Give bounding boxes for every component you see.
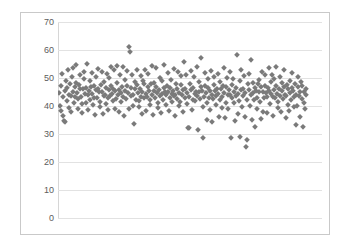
scatter-point bbox=[262, 73, 268, 79]
scatter-point bbox=[107, 75, 113, 81]
scatter-point bbox=[79, 110, 85, 116]
plot-area bbox=[58, 22, 322, 218]
scatter-point bbox=[278, 109, 284, 115]
scatter-point bbox=[266, 65, 272, 71]
scatter-point bbox=[136, 104, 142, 110]
scatter-point bbox=[62, 119, 68, 125]
scatter-point bbox=[145, 71, 151, 77]
scatter-point bbox=[159, 78, 165, 84]
scatter-point bbox=[300, 124, 306, 130]
scatter-point bbox=[286, 108, 292, 114]
scatter-point bbox=[242, 114, 248, 120]
scatter-point bbox=[165, 70, 171, 76]
chart-container: 010203040506070 bbox=[0, 0, 351, 248]
scatter-point bbox=[166, 108, 172, 114]
scatter-point bbox=[184, 101, 190, 107]
scatter-point bbox=[222, 115, 228, 121]
scatter-point bbox=[127, 49, 133, 55]
scatter-point bbox=[117, 73, 123, 79]
scatter-point bbox=[289, 70, 295, 76]
scatter-point bbox=[237, 78, 243, 84]
y-axis-tick-label: 60 bbox=[24, 46, 54, 55]
scatter-point bbox=[188, 68, 194, 74]
scatter-point bbox=[254, 106, 260, 112]
scatter-point bbox=[207, 107, 213, 113]
scatter-point bbox=[153, 65, 159, 71]
y-axis-tick-label: 0 bbox=[24, 214, 54, 223]
scatter-point bbox=[209, 119, 215, 125]
scatter-point bbox=[227, 69, 233, 75]
scatter-point bbox=[248, 57, 254, 63]
scatter-point bbox=[224, 75, 230, 81]
y-axis-tick-label: 40 bbox=[24, 102, 54, 111]
scatter-point bbox=[150, 112, 156, 118]
scatter-point bbox=[273, 64, 279, 70]
scatter-point bbox=[247, 103, 253, 109]
scatter-point bbox=[270, 113, 276, 119]
scatter-point bbox=[221, 66, 227, 72]
scatter-point bbox=[105, 108, 111, 114]
scatter-point bbox=[200, 104, 206, 110]
scatter-point bbox=[243, 144, 249, 150]
scatter-point bbox=[183, 72, 189, 78]
scatter-point bbox=[161, 62, 167, 68]
scatter-point bbox=[172, 113, 178, 119]
scatter-point bbox=[134, 67, 140, 73]
scatter-point bbox=[198, 55, 204, 61]
scatter-point bbox=[267, 101, 273, 107]
y-axis-tick-label: 50 bbox=[24, 74, 54, 83]
scatter-point bbox=[302, 106, 308, 112]
scatter-point bbox=[237, 134, 243, 140]
scatter-point bbox=[264, 110, 270, 116]
scatter-point bbox=[277, 74, 283, 80]
scatter-point bbox=[59, 71, 65, 77]
scatter-point bbox=[121, 113, 127, 119]
scatter-point bbox=[258, 116, 264, 122]
scatter-point bbox=[69, 74, 75, 80]
scatter-point bbox=[281, 67, 287, 73]
scatter-point bbox=[181, 59, 187, 65]
scatter-point bbox=[177, 99, 183, 105]
scatter-point bbox=[84, 61, 90, 67]
scatter-point bbox=[232, 118, 238, 124]
scatter-point bbox=[297, 114, 303, 120]
scatter-point bbox=[189, 107, 195, 113]
scatter-point bbox=[239, 104, 245, 110]
scatter-point bbox=[158, 110, 164, 116]
scatter-point bbox=[246, 71, 252, 77]
scatter-point bbox=[64, 98, 70, 104]
scatter-point bbox=[252, 124, 258, 130]
scatter-point bbox=[122, 77, 128, 83]
scatter-point bbox=[143, 108, 149, 114]
scatter-point bbox=[168, 77, 174, 83]
scatter-point bbox=[216, 114, 222, 120]
scatter-point bbox=[244, 137, 250, 143]
scatter-point bbox=[234, 52, 240, 58]
scatter-point bbox=[213, 102, 219, 108]
scatter-point bbox=[100, 111, 106, 117]
y-axis-tick-label: 70 bbox=[24, 18, 54, 27]
scatter-point bbox=[92, 112, 98, 118]
scatter-point bbox=[225, 106, 231, 112]
y-axis-labels: 010203040506070 bbox=[22, 0, 54, 248]
y-axis-tick-label: 20 bbox=[24, 158, 54, 167]
scatter-point bbox=[249, 117, 255, 123]
scatter-point bbox=[85, 107, 91, 113]
scatter-point bbox=[219, 105, 225, 111]
scatter-point bbox=[129, 72, 135, 78]
scatter-point bbox=[191, 74, 197, 80]
gridline bbox=[58, 218, 322, 219]
scatter-point bbox=[200, 136, 206, 142]
y-axis-tick-label: 30 bbox=[24, 130, 54, 139]
scatter-point bbox=[87, 78, 93, 84]
scatter-point bbox=[194, 64, 200, 70]
scatter-point bbox=[235, 111, 241, 117]
y-axis-tick-label: 10 bbox=[24, 186, 54, 195]
scatter-point bbox=[180, 109, 186, 115]
scatter-point bbox=[195, 127, 201, 133]
scatter-points bbox=[58, 22, 322, 218]
scatter-point bbox=[116, 109, 122, 115]
scatter-point bbox=[283, 115, 289, 121]
scatter-point bbox=[131, 121, 137, 127]
scatter-point bbox=[228, 135, 234, 141]
